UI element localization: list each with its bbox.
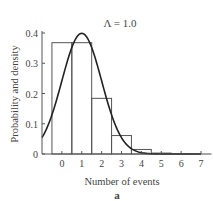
y-tick-labels: 00.10.20.30.4 <box>26 28 39 160</box>
bar <box>52 43 72 154</box>
x-tick-label: 2 <box>99 158 104 169</box>
y-tick-label: 0.4 <box>26 28 39 39</box>
chart-title: Λ = 1.0 <box>103 17 137 29</box>
y-tick-label: 0.3 <box>26 58 39 69</box>
x-tick-label: 0 <box>59 158 64 169</box>
poisson-bars <box>52 43 211 154</box>
y-tick-label: 0 <box>33 149 38 160</box>
panel-label: a <box>114 189 120 201</box>
x-tick-label: 5 <box>159 158 164 169</box>
x-axis-label: Number of events <box>84 176 159 187</box>
bar <box>72 43 92 154</box>
y-tick-label: 0.1 <box>26 119 39 130</box>
y-axis-label: Probability and density <box>9 45 20 143</box>
x-tick-label: 6 <box>179 158 184 169</box>
x-tick-labels: 01234567 <box>59 158 203 169</box>
x-tick-label: 1 <box>79 158 84 169</box>
x-tick-label: 4 <box>139 158 144 169</box>
x-tick-label: 3 <box>119 158 124 169</box>
poisson-normal-chart: 00.10.20.30.4 01234567 Λ = 1.0 Number of… <box>0 0 213 201</box>
x-tick-label: 7 <box>199 158 204 169</box>
y-tick-label: 0.2 <box>26 89 39 100</box>
